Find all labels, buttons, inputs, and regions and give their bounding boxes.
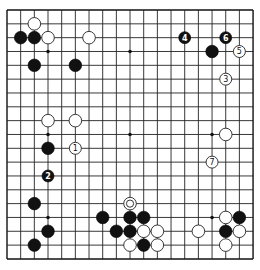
black-stone[interactable] xyxy=(42,142,55,155)
white-stone[interactable]: 5 xyxy=(233,45,245,57)
black-stone[interactable]: 6 xyxy=(220,32,232,44)
stone-disc xyxy=(137,211,150,224)
black-stone[interactable] xyxy=(28,239,41,252)
stone-disc xyxy=(219,225,232,238)
stone-disc xyxy=(28,18,41,31)
stone-disc xyxy=(14,31,27,44)
black-stone[interactable] xyxy=(14,31,27,44)
star-point xyxy=(46,50,50,54)
white-stone[interactable] xyxy=(42,31,55,44)
stone-disc xyxy=(233,225,246,238)
stone-disc xyxy=(28,197,41,210)
star-point xyxy=(128,50,132,54)
stone-disc xyxy=(233,211,246,224)
star-point xyxy=(46,133,50,137)
black-stone[interactable] xyxy=(124,225,137,238)
black-stone[interactable] xyxy=(137,211,150,224)
stone-disc xyxy=(192,225,205,238)
stone-disc xyxy=(69,59,82,72)
stone-disc xyxy=(137,225,150,238)
white-stone[interactable]: 7 xyxy=(206,156,218,168)
stone-disc xyxy=(151,225,164,238)
black-stone[interactable] xyxy=(28,197,41,210)
black-stone[interactable] xyxy=(124,211,137,224)
black-stone[interactable]: 4 xyxy=(179,32,191,44)
move-number: 4 xyxy=(182,34,188,43)
stone-disc xyxy=(42,31,55,44)
white-stone[interactable] xyxy=(124,239,137,252)
stone-disc xyxy=(83,31,96,44)
move-number: 6 xyxy=(223,34,229,43)
stone-disc xyxy=(28,31,41,44)
white-stone[interactable] xyxy=(192,225,205,238)
stone-disc xyxy=(42,114,55,127)
white-stone[interactable] xyxy=(219,211,232,224)
white-stone[interactable] xyxy=(69,114,82,127)
white-stone[interactable] xyxy=(124,197,137,210)
black-stone[interactable] xyxy=(219,225,232,238)
black-stone[interactable] xyxy=(233,211,246,224)
stone-disc xyxy=(124,225,137,238)
star-point xyxy=(210,133,214,137)
stone-disc xyxy=(110,225,123,238)
stone-disc xyxy=(28,239,41,252)
white-stone[interactable] xyxy=(219,128,232,141)
stone-disc xyxy=(124,211,137,224)
star-point xyxy=(210,216,214,220)
move-number: 5 xyxy=(237,47,242,56)
stone-disc xyxy=(219,239,232,252)
black-stone[interactable]: 2 xyxy=(42,170,54,182)
stone-disc xyxy=(124,239,137,252)
black-stone[interactable] xyxy=(28,31,41,44)
white-stone[interactable]: 1 xyxy=(69,142,81,154)
move-number: 1 xyxy=(73,144,78,153)
stone-disc xyxy=(42,142,55,155)
black-stone[interactable] xyxy=(42,225,55,238)
white-stone[interactable] xyxy=(28,18,41,31)
black-stone[interactable] xyxy=(69,59,82,72)
black-stone[interactable] xyxy=(28,59,41,72)
white-stone[interactable] xyxy=(219,239,232,252)
stone-disc xyxy=(124,197,137,210)
black-stone[interactable] xyxy=(96,211,109,224)
black-stone[interactable] xyxy=(137,239,150,252)
go-board[interactable]: 4653127 xyxy=(0,0,260,270)
black-stone[interactable] xyxy=(206,45,219,58)
stone-disc xyxy=(151,239,164,252)
go-board-svg[interactable]: 4653127 xyxy=(0,0,260,270)
black-stone[interactable] xyxy=(110,225,123,238)
stone-disc xyxy=(137,239,150,252)
stone-disc xyxy=(219,128,232,141)
white-stone[interactable] xyxy=(151,225,164,238)
star-point xyxy=(46,216,50,220)
white-stone[interactable] xyxy=(137,225,150,238)
stone-disc xyxy=(206,45,219,58)
white-stone[interactable] xyxy=(42,114,55,127)
stone-disc xyxy=(96,211,109,224)
white-stone[interactable] xyxy=(151,239,164,252)
white-stone[interactable] xyxy=(83,31,96,44)
stone-disc xyxy=(42,225,55,238)
stone-disc xyxy=(219,211,232,224)
move-number: 3 xyxy=(223,75,228,84)
star-point xyxy=(128,133,132,137)
stone-disc xyxy=(69,114,82,127)
move-number: 2 xyxy=(45,172,51,181)
stone-disc xyxy=(28,59,41,72)
white-stone[interactable]: 3 xyxy=(220,73,232,85)
white-stone[interactable] xyxy=(233,225,246,238)
move-number: 7 xyxy=(210,158,215,167)
